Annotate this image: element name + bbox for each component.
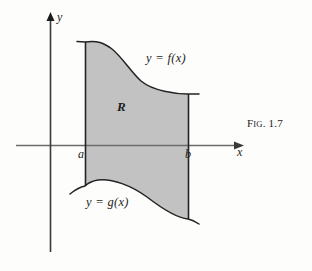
figure-caption: FIG. 1.7 bbox=[247, 117, 283, 129]
y-axis-label: y bbox=[57, 11, 62, 23]
caption-smallcaps: IG bbox=[253, 119, 262, 129]
y-axis-arrow-icon bbox=[47, 12, 55, 21]
lower-curve-label: y = g(x) bbox=[86, 196, 129, 209]
figure-container: y x a b R y = f(x) y = g(x) FIG. 1.7 bbox=[0, 0, 312, 271]
region-shaded-area bbox=[85, 41, 188, 219]
caption-number: . 1.7 bbox=[263, 117, 283, 129]
upper-curve-label: y = f(x) bbox=[146, 52, 186, 65]
figure-graphic bbox=[0, 0, 312, 271]
tick-label-a: a bbox=[78, 148, 84, 160]
x-axis-label: x bbox=[237, 146, 242, 158]
tick-label-b: b bbox=[185, 148, 191, 160]
region-label-R: R bbox=[117, 100, 126, 113]
